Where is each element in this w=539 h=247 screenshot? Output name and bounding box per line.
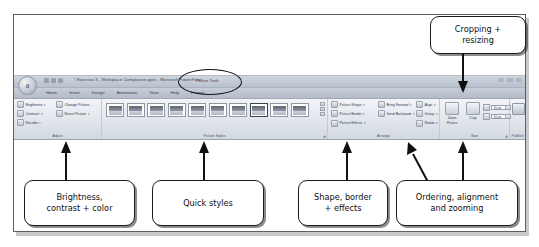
contrast-button[interactable]: Contrast ▾ [17, 110, 46, 117]
crop-icon [466, 102, 480, 115]
send-backward-icon [378, 110, 385, 117]
arrange-align-column: Align ▾ Group ▾ Rotate ▾ [416, 101, 438, 129]
office-orb-button[interactable]: a [18, 76, 37, 95]
picture-style-thumb[interactable] [209, 103, 227, 117]
arrow-shape [339, 140, 359, 182]
picture-shape-icon [331, 101, 338, 108]
picture-style-thumb[interactable] [291, 103, 309, 117]
width-icon [483, 113, 490, 120]
chevron-down-icon: ▾ [44, 103, 46, 107]
scroll-up-icon[interactable] [320, 102, 325, 106]
change-picture-button[interactable]: Change Picture... [56, 101, 92, 108]
preview-icon[interactable] [512, 103, 525, 115]
chevron-down-icon: ▾ [363, 112, 365, 116]
ribbon-group-arrange: Picture Shape ▾ Picture Border ▾ Picture… [328, 99, 440, 139]
shape-height-value[interactable]: 10 pc [491, 105, 511, 111]
picture-style-thumb[interactable] [229, 103, 247, 117]
redo-icon[interactable] [58, 78, 63, 83]
bring-forward-button[interactable]: Bring Forward ▾ [378, 101, 415, 108]
title-bar: * Exercise 3 - Workplace Compliance.pptx… [14, 76, 525, 88]
arrange-order-column: Bring Forward ▾ Send Backward ▾ [378, 101, 415, 120]
picture-effects-icon [331, 120, 338, 127]
picture-shape-button[interactable]: Picture Shape ▾ [331, 101, 366, 108]
group-button[interactable]: Group ▾ [416, 110, 438, 117]
picture-style-gallery[interactable] [106, 103, 309, 117]
tab-animations[interactable]: Animations [111, 89, 144, 96]
tab-insert[interactable]: Insert [63, 89, 85, 96]
chevron-down-icon: ▾ [39, 121, 41, 125]
callout-shape: Shape, border+ effects [298, 180, 388, 226]
minimize-icon[interactable] [498, 78, 504, 82]
rotate-button[interactable]: Rotate ▾ [416, 120, 438, 127]
picture-style-thumb-selected[interactable] [250, 103, 268, 117]
chevron-down-icon: ▾ [88, 112, 90, 116]
group-label-adjust: Adjust [14, 133, 101, 139]
crop-button[interactable]: Crop [463, 102, 483, 121]
reset-picture-button[interactable]: Reset Picture ▾ [56, 110, 92, 117]
arrow-ordering [404, 140, 434, 182]
brightness-button[interactable]: Brightness ▾ [17, 101, 46, 108]
group-label-arrange: Arrange [328, 133, 439, 139]
chevron-down-icon: ▾ [436, 112, 438, 116]
maximize-icon[interactable] [507, 78, 513, 82]
gallery-scroll-buttons[interactable] [320, 102, 325, 117]
tab-view[interactable]: View [143, 89, 164, 96]
zoom-picture-button[interactable]: Zoom Picture [442, 102, 462, 125]
chevron-down-icon: ▾ [364, 121, 366, 125]
picture-style-thumb[interactable] [147, 103, 165, 117]
ribbon-group-publish: Publish [510, 99, 525, 139]
arrow-brightness [58, 140, 78, 182]
align-icon [416, 101, 423, 108]
send-backward-button[interactable]: Send Backward ▾ [378, 110, 415, 117]
recolor-button[interactable]: Recolor ▾ [17, 119, 46, 126]
close-icon[interactable] [516, 78, 522, 82]
picture-style-thumb[interactable] [127, 103, 145, 117]
group-label-size: Size [440, 133, 509, 139]
more-styles-icon[interactable] [320, 112, 325, 116]
align-button[interactable]: Align ▾ [416, 101, 438, 108]
callout-cropping: Cropping +resizing [430, 16, 526, 54]
adjust-left-column: Brightness ▾ Contrast ▾ Recolor ▾ [17, 101, 46, 129]
chevron-down-icon: ▾ [410, 103, 412, 107]
chevron-down-icon: ▾ [436, 121, 438, 125]
chevron-down-icon: ▾ [434, 103, 436, 107]
undo-icon[interactable] [51, 78, 56, 83]
ribbon-body: Brightness ▾ Contrast ▾ Recolor ▾ [14, 99, 525, 139]
recolor-icon [17, 119, 24, 126]
arrow-zooming [455, 140, 475, 182]
shape-width-value[interactable]: 10 pc [491, 114, 511, 120]
arrow-quick-styles [196, 140, 216, 182]
powerpoint-window: * Exercise 3 - Workplace Compliance.pptx… [14, 75, 525, 140]
callout-quick-styles: Quick styles [152, 180, 264, 226]
picture-styles-dialog-launcher[interactable]: ◢ [323, 134, 325, 138]
group-label-picture-styles: Picture Styles [102, 133, 327, 139]
picture-style-thumb[interactable] [270, 103, 288, 117]
size-dialog-launcher[interactable]: ◢ [505, 134, 507, 138]
picture-border-icon [331, 110, 338, 117]
chevron-down-icon: ▾ [413, 112, 415, 116]
shape-height-stepper[interactable]: 10 pc [483, 104, 511, 111]
shape-width-stepper[interactable]: 10 pc [483, 113, 511, 120]
tab-home[interactable]: Home [40, 89, 63, 96]
chevron-down-icon: ▾ [41, 112, 43, 116]
picture-style-thumb[interactable] [106, 103, 124, 117]
tab-design[interactable]: Design [86, 89, 111, 96]
group-label-publish: Publish [510, 133, 525, 139]
change-picture-icon [56, 101, 63, 108]
quick-access-toolbar[interactable] [44, 78, 63, 83]
figure-canvas: * Exercise 3 - Workplace Compliance.pptx… [0, 0, 539, 247]
chevron-down-icon: ▾ [363, 103, 365, 107]
picture-style-thumb[interactable] [168, 103, 186, 117]
picture-effects-button[interactable]: Picture Effects ▾ [331, 120, 366, 127]
picture-style-thumb[interactable] [188, 103, 206, 117]
window-controls[interactable] [498, 78, 522, 82]
callout-ordering: Ordering, alignmentand zooming [396, 180, 518, 226]
ribbon-group-adjust: Brightness ▾ Contrast ▾ Recolor ▾ [14, 99, 102, 139]
ribbon-tab-row[interactable]: Picture Tools Home Insert Design Animati… [14, 88, 525, 99]
save-icon[interactable] [44, 78, 49, 83]
height-icon [483, 104, 490, 111]
tab-help[interactable]: Help [164, 89, 185, 96]
scroll-down-icon[interactable] [320, 107, 325, 111]
picture-border-button[interactable]: Picture Border ▾ [331, 110, 366, 117]
rotate-icon [416, 120, 423, 127]
